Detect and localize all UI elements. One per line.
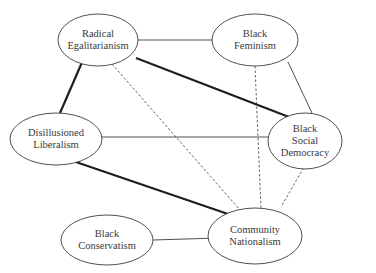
node-label-community-nationalism: Community Nationalism (208, 208, 302, 264)
node-label-disillusioned-liberalism: Disillusioned Liberalism (10, 113, 102, 165)
node-label-black-social-democracy: Black Social Democracy (268, 113, 342, 169)
node-label-black-conservatism: Black Conservatism (61, 215, 153, 265)
network-diagram: Radical EgalitarianismBlack FeminismDisi… (0, 0, 376, 273)
node-label-radical-egalitarianism: Radical Egalitarianism (58, 14, 138, 66)
node-label-black-feminism: Black Feminism (212, 14, 298, 66)
